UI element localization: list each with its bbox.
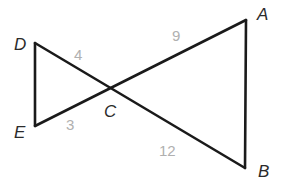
segment-DB	[35, 43, 245, 168]
segment-EA	[35, 20, 246, 126]
side-length-dc: 4	[74, 47, 82, 62]
side-length-cb: 12	[159, 143, 176, 158]
segment-AB	[245, 20, 246, 168]
vertex-label-e: E	[14, 124, 25, 141]
side-length-ec: 3	[66, 117, 74, 132]
vertex-label-a: A	[257, 6, 268, 23]
side-length-ca: 9	[172, 28, 180, 43]
vertex-label-b: B	[258, 163, 269, 180]
vertex-label-d: D	[14, 36, 26, 53]
vertex-label-c: C	[104, 103, 116, 120]
geometry-figure: A B C D E 4 3 9 12	[0, 0, 296, 190]
geometry-canvas	[0, 0, 296, 190]
